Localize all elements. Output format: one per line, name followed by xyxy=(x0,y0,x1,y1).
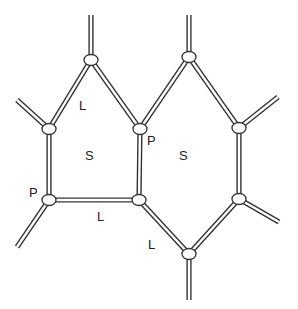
node-B xyxy=(42,124,56,135)
edge-C-F-channel xyxy=(140,57,189,129)
label-solid-cell-left: S xyxy=(85,148,94,163)
edge-F-G-channel xyxy=(189,57,239,128)
label-solid-cell-right: S xyxy=(179,148,188,163)
edge-A-C-channel xyxy=(91,60,140,129)
label-liquid-edge-1: L xyxy=(79,98,86,113)
node-D xyxy=(42,195,56,206)
node-C xyxy=(133,124,147,135)
label-liquid-edge-bottom: L xyxy=(97,209,104,224)
node-H xyxy=(232,194,246,205)
edge-E-I-channel xyxy=(139,200,189,254)
label-liquid-edge-diagonal: L xyxy=(148,237,155,252)
node-A xyxy=(84,55,98,66)
label-node-left: P xyxy=(29,185,38,200)
edge-stub-D-channel xyxy=(17,200,49,247)
node-G xyxy=(232,123,246,134)
edge-stub-G-channel xyxy=(239,97,278,128)
node-F xyxy=(182,52,196,63)
edge-C-E-channel xyxy=(139,129,140,200)
edge-H-I-channel xyxy=(189,199,239,254)
label-node-center: P xyxy=(147,133,156,148)
node-I xyxy=(182,249,196,260)
edge-A-B-channel xyxy=(49,60,91,129)
node-E xyxy=(132,195,146,206)
cell-network-diagram: L S P S P L L xyxy=(0,0,298,309)
